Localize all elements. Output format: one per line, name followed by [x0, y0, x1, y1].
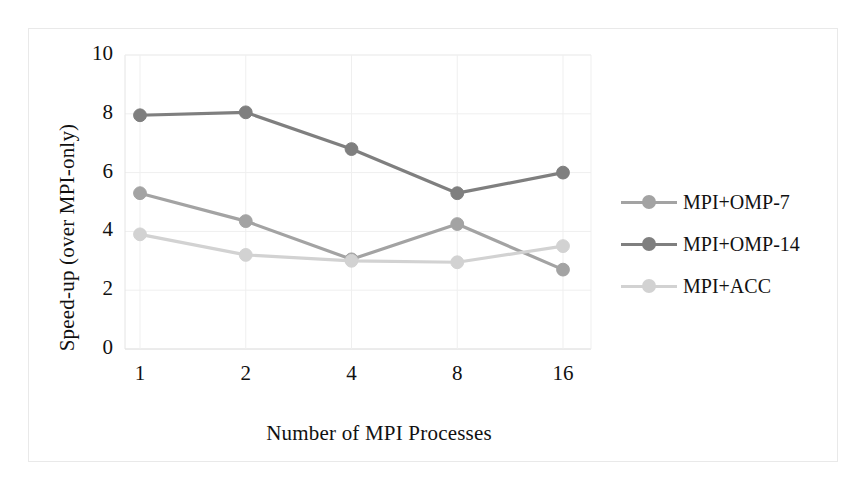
data-point: [557, 240, 570, 253]
x-tick-label: 8: [437, 361, 477, 386]
data-point: [451, 187, 464, 200]
chart-gridlines: [125, 55, 591, 349]
legend-marker-icon: [621, 276, 677, 296]
data-point: [239, 215, 252, 228]
y-tick-label: 10: [79, 41, 113, 66]
legend-item-label: MPI+OMP-14: [677, 233, 800, 256]
y-tick-label: 4: [79, 217, 113, 242]
data-point: [557, 263, 570, 276]
legend-item-label: MPI+OMP-7: [677, 191, 790, 214]
y-tick-label: 6: [79, 159, 113, 184]
x-tick-label: 2: [226, 361, 266, 386]
y-tick-label: 2: [79, 276, 113, 301]
legend-item[interactable]: MPI+ACC: [621, 265, 836, 307]
legend-marker-icon: [621, 234, 677, 254]
data-point: [345, 143, 358, 156]
data-point: [134, 228, 147, 241]
data-point: [451, 256, 464, 269]
y-tick-label: 8: [79, 100, 113, 125]
x-tick-label: 1: [120, 361, 160, 386]
data-point: [557, 166, 570, 179]
data-point: [345, 254, 358, 267]
data-point: [239, 106, 252, 119]
chart-figure: Speed-up (over MPI-only) Number of MPI P…: [28, 28, 838, 462]
legend-item-label: MPI+ACC: [677, 275, 771, 298]
y-axis-title: Speed-up (over MPI-only): [55, 108, 80, 368]
y-tick-label: 0: [79, 335, 113, 360]
x-axis-title: Number of MPI Processes: [149, 421, 609, 446]
legend-item[interactable]: MPI+OMP-7: [621, 181, 836, 223]
legend-marker-icon: [621, 192, 677, 212]
x-tick-label: 4: [332, 361, 372, 386]
data-point: [134, 109, 147, 122]
x-tick-label: 16: [543, 361, 583, 386]
legend-item[interactable]: MPI+OMP-14: [621, 223, 836, 265]
chart-legend: MPI+OMP-7MPI+OMP-14MPI+ACC: [621, 181, 836, 307]
data-point: [451, 218, 464, 231]
data-point: [134, 187, 147, 200]
data-point: [239, 249, 252, 262]
